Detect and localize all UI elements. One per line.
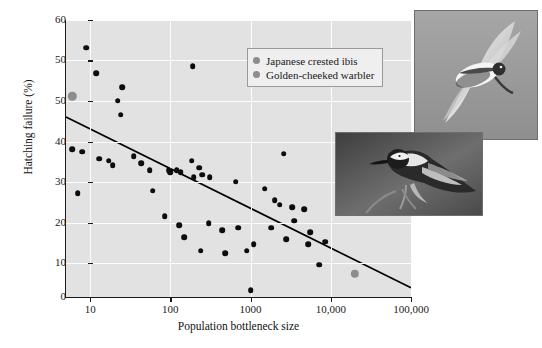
y-tick-label: 0 [40,291,66,302]
x-tick-mark [170,297,171,302]
legend-label: Japanese crested ibis [266,55,358,67]
data-point [150,188,156,194]
data-point [197,165,203,171]
data-point [268,225,274,231]
legend-item-golden-cheeked-warbler: Golden-cheeked warbler [253,68,374,81]
data-point [177,223,183,229]
data-point [235,225,241,231]
data-point [233,179,239,185]
x-tick-mark [90,297,91,302]
data-point [70,146,76,152]
data-point [262,186,268,192]
y-tick-mark [88,60,93,61]
x-axis-title: Population bottleneck size [66,320,411,332]
data-point [118,112,124,118]
x-axis-line [65,297,411,298]
data-point [75,190,81,196]
gridline-horizontal [66,263,411,264]
data-point [222,250,228,256]
x-tick-mark [411,297,412,302]
x-tick-label: 100,000 [393,303,429,315]
data-point [305,241,311,247]
y-tick-mark [88,20,93,21]
data-point [119,84,125,90]
gridline-horizontal [66,20,411,21]
y-axis-title: Hatching failure (%) [22,57,34,197]
data-point [302,206,308,212]
data-point [178,170,184,176]
data-point [219,227,225,233]
y-tick-label: 30 [40,176,66,187]
x-tick-mark [331,297,332,302]
legend-label: Golden-cheeked warbler [266,69,374,81]
data-point [182,234,188,240]
data-point [147,167,153,173]
data-point [168,170,174,176]
data-point [189,158,195,164]
x-tick-mark [251,297,252,302]
y-tick-mark [88,142,93,143]
data-point [277,202,283,208]
legend-marker-icon [253,71,260,78]
y-tick-label: 50 [40,54,66,65]
y-tick-mark [88,263,93,264]
data-point [110,163,116,169]
data-point [94,70,100,76]
y-tick-label: 10 [40,257,66,268]
data-point [244,248,250,254]
data-point [162,213,168,219]
y-tick-mark [88,101,93,102]
y-tick-label: 20 [40,217,66,228]
data-point [190,63,196,69]
x-tick-label: 100 [162,303,179,315]
x-tick-label: 10,000 [316,303,346,315]
data-point [131,153,137,159]
data-point [248,287,254,293]
x-tick-label: 1000 [240,303,262,315]
y-tick-label: 50 [40,95,66,106]
data-point [207,174,213,180]
data-point [317,262,323,268]
gridline-horizontal [66,223,411,224]
gridline-vertical [170,20,171,297]
data-point [322,239,328,245]
data-point [80,149,86,155]
data-point [84,45,90,51]
data-point [206,220,212,226]
legend: Japanese crested ibis Golden-cheeked war… [247,48,383,87]
y-tick-mark [88,223,93,224]
data-point [281,151,287,157]
golden-cheeked-warbler-photo [335,132,483,216]
warbler-illustration [336,133,482,215]
data-point [199,172,205,178]
y-tick-label: 40 [40,136,66,147]
data-point [289,204,295,210]
hatching-failure-scatter-figure: 605050403020100 10100100010,000100,000 H… [0,0,542,348]
ibis-illustration [415,11,537,139]
data-point [198,248,204,254]
data-point [307,230,313,236]
data-point [284,236,290,242]
data-point [96,156,102,162]
data-point [291,218,297,224]
y-tick-mark [88,182,93,183]
japanese-crested-ibis-photo [414,10,538,140]
data-point [138,160,144,166]
data-point [251,241,257,247]
x-tick-label: 10 [85,303,96,315]
data-point [191,174,197,180]
data-point [115,98,121,104]
y-tick-label: 60 [40,14,66,25]
legend-marker-icon [253,57,260,64]
legend-item-japanese-crested-ibis: Japanese crested ibis [253,54,374,67]
